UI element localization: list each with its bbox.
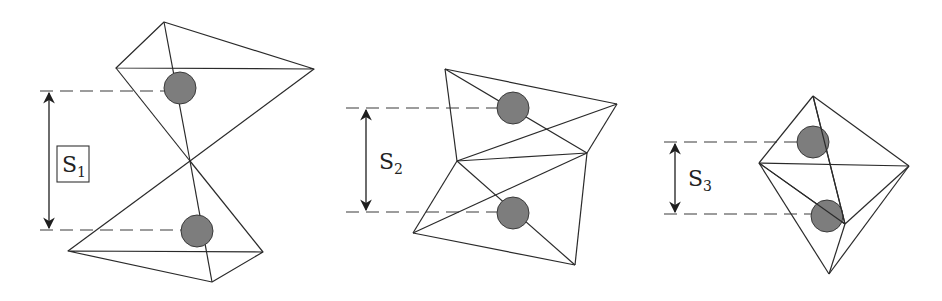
cation-ball-bottom bbox=[497, 197, 529, 229]
separation-label-s1: S1 bbox=[62, 152, 86, 180]
cation-ball-top bbox=[164, 72, 196, 104]
figure-edge-sharing: S2 bbox=[346, 69, 617, 265]
upper-tetrahedron bbox=[445, 69, 617, 161]
cation-ball-bottom bbox=[811, 200, 843, 232]
separation-label-s2: S2 bbox=[379, 149, 403, 177]
figure-corner-sharing: S1 bbox=[40, 22, 314, 282]
polyhedra-linkage-diagram: S1 S2 bbox=[0, 0, 942, 301]
cation-ball-bottom bbox=[181, 215, 213, 247]
separation-label-s3: S3 bbox=[688, 166, 712, 194]
figure-face-sharing: S3 bbox=[664, 96, 909, 274]
cation-ball-top bbox=[497, 92, 529, 124]
lower-tetrahedron bbox=[68, 161, 263, 282]
